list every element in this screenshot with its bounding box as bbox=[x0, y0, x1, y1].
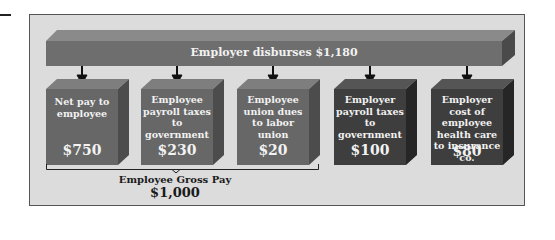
gross-pay-bracket bbox=[47, 164, 319, 173]
box-2-text: Employee payroll taxes to government bbox=[141, 94, 213, 140]
box-4-text: Employer payroll taxes to government bbox=[334, 94, 406, 140]
box-4-amount: $100 bbox=[334, 142, 406, 158]
box-2-amount: $230 bbox=[141, 142, 213, 158]
box-3-amount: $20 bbox=[237, 142, 309, 158]
box-3-text: Employee union dues to labor union bbox=[237, 94, 309, 140]
box-1-text: Net pay to employee bbox=[46, 96, 118, 119]
gross-pay-amount: $1,000 bbox=[100, 185, 250, 200]
bar-label: Employer disburses $1,180 bbox=[46, 44, 502, 62]
box-5-amount: $80 bbox=[431, 143, 503, 159]
box-1-amount: $750 bbox=[46, 142, 118, 158]
